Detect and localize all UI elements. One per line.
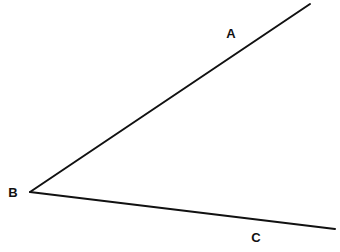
label-a: A [226,26,236,41]
ray-ba [30,4,310,192]
ray-bc [30,192,335,229]
angle-diagram: A B C [0,0,340,252]
label-c: C [251,230,261,245]
label-b: B [8,185,17,200]
